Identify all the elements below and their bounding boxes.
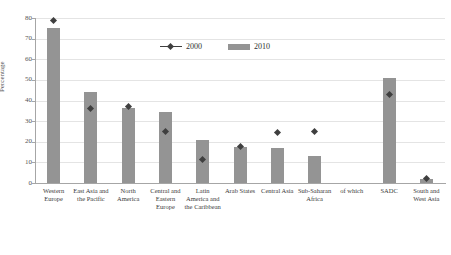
x-axis-label-3: North America <box>110 187 147 203</box>
legend-item-2000: 2000 <box>160 42 202 51</box>
y-axis-tick-label: 60 <box>14 56 32 63</box>
y-axis-tick-label: 80 <box>14 15 32 22</box>
x-axis-label-2: East Asia and the Pacific <box>72 187 109 203</box>
legend-label-2010: 2010 <box>254 42 270 51</box>
marker-10 <box>386 91 393 98</box>
x-axis-category-labels: Western EuropeEast Asia and the PacificN… <box>35 187 445 253</box>
chart-legend: 2000 2010 <box>160 42 270 51</box>
y-axis-tick-label: 70 <box>14 35 32 42</box>
marker-2 <box>87 105 94 112</box>
diamond-marker-icon <box>160 46 182 47</box>
x-axis-label-7: Central Asia <box>259 187 296 195</box>
legend-item-2010: 2010 <box>228 42 270 51</box>
marker-1 <box>50 17 57 24</box>
marker-4 <box>162 128 169 135</box>
marker-6 <box>236 143 243 150</box>
x-axis-label-4: Central and Eastern Europe <box>147 187 184 211</box>
y-axis-tick-label: 40 <box>14 97 32 104</box>
x-axis-label-1: Western Europe <box>35 187 72 203</box>
marker-5 <box>199 156 206 163</box>
y-axis-tick-label: 50 <box>14 76 32 83</box>
y-axis-title: Percentage <box>0 61 6 92</box>
legend-label-2000: 2000 <box>186 42 202 51</box>
marker-11 <box>423 175 430 182</box>
x-axis-label-9: of which <box>333 187 370 195</box>
marker-3 <box>125 103 132 110</box>
y-axis-tick-label: 0 <box>14 180 32 187</box>
marker-7 <box>274 129 281 136</box>
bar-swatch-icon <box>228 44 250 50</box>
y-axis-tick-label: 30 <box>14 118 32 125</box>
marker-8 <box>311 128 318 135</box>
x-axis-label-5: Latin America and the Caribbean <box>184 187 221 211</box>
chart-container: Percentage 01020304050607080 Western Eur… <box>0 0 451 255</box>
x-axis-line <box>35 183 446 184</box>
y-axis-tick-label: 10 <box>14 159 32 166</box>
x-axis-label-6: Arab States <box>221 187 258 195</box>
x-axis-label-11: South and West Asia <box>408 187 445 203</box>
x-axis-label-8: Sub-Saharan Africa <box>296 187 333 203</box>
x-axis-label-10: SADC <box>370 187 407 195</box>
y-axis-tick-label: 20 <box>14 138 32 145</box>
